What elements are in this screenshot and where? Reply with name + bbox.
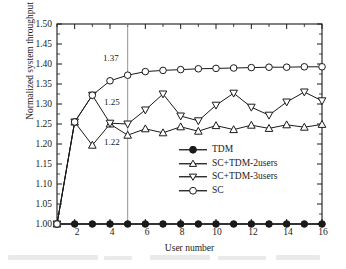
series-sc-tdm-3users xyxy=(53,89,326,228)
figure-container: Normalized system throughput 1.50 1.45 1… xyxy=(0,0,346,269)
series-tdm xyxy=(54,221,326,228)
chart-plot-area xyxy=(0,0,346,269)
series-sc-tdm-2users xyxy=(53,118,326,227)
